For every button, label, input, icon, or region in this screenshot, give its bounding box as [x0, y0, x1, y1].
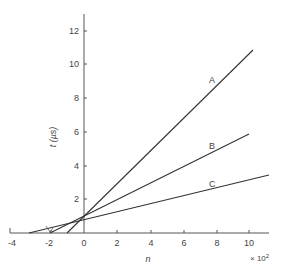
x-tick-labels: -4 -2 0 2 4 6 8 10: [8, 238, 254, 248]
chart: -4 -2 0 2 4 6 8 10 2 4 6 8 10 12 t (µs) …: [0, 0, 290, 273]
x-multiplier: × 102: [250, 253, 270, 263]
svg-text:10: 10: [244, 238, 254, 248]
series-b-label: B: [209, 141, 215, 151]
series-b-line: [50, 134, 249, 233]
svg-text:6: 6: [74, 127, 79, 137]
svg-text:8: 8: [74, 93, 79, 103]
svg-text:-2: -2: [45, 238, 53, 248]
svg-text:4: 4: [74, 161, 79, 171]
svg-text:2: 2: [114, 238, 119, 248]
svg-text:10: 10: [69, 59, 79, 69]
svg-text:2: 2: [74, 194, 79, 204]
svg-text:8: 8: [214, 238, 219, 248]
svg-text:0: 0: [81, 238, 86, 248]
series-c-label: C: [209, 179, 216, 189]
y-axis-label: t (µs): [48, 127, 58, 148]
series-a-line: [67, 50, 253, 233]
svg-text:6: 6: [181, 238, 186, 248]
y-tick-labels: 2 4 6 8 10 12: [69, 26, 79, 204]
x-axis-label: n: [145, 254, 150, 264]
svg-text:4: 4: [148, 238, 153, 248]
svg-text:-4: -4: [8, 238, 16, 248]
svg-text:12: 12: [69, 26, 79, 36]
series-a-label: A: [209, 75, 215, 85]
